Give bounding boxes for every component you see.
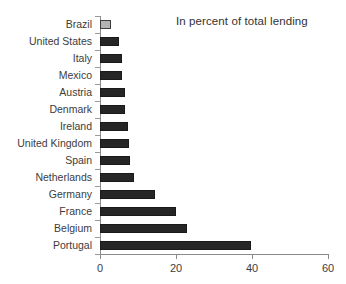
x-axis-line bbox=[100, 254, 329, 255]
x-axis-tick-label: 40 bbox=[232, 262, 272, 274]
bar-belgium[interactable] bbox=[100, 224, 187, 233]
category-label-netherlands: Netherlands bbox=[0, 169, 92, 186]
category-label-united-states: United States bbox=[0, 33, 92, 50]
category-label-mexico: Mexico bbox=[0, 67, 92, 84]
x-axis-tick bbox=[328, 254, 329, 259]
bar-row bbox=[100, 67, 328, 84]
bar-spain[interactable] bbox=[100, 156, 130, 165]
bar-row bbox=[100, 33, 328, 50]
category-label-austria: Austria bbox=[0, 84, 92, 101]
x-axis-tick-label: 20 bbox=[156, 262, 196, 274]
bar-united-kingdom[interactable] bbox=[100, 139, 129, 148]
bar-mexico[interactable] bbox=[100, 71, 122, 80]
bar-ireland[interactable] bbox=[100, 122, 128, 131]
bar-row bbox=[100, 203, 328, 220]
x-axis-tick bbox=[252, 254, 253, 259]
category-label-germany: Germany bbox=[0, 186, 92, 203]
bar-denmark[interactable] bbox=[100, 105, 125, 114]
bar-row bbox=[100, 237, 328, 254]
x-axis-tick bbox=[100, 254, 101, 259]
bar-row bbox=[100, 118, 328, 135]
category-label-belgium: Belgium bbox=[0, 220, 92, 237]
bar-row bbox=[100, 16, 328, 33]
bar-chart: In percent of total lending BrazilUnited… bbox=[0, 0, 346, 284]
category-label-ireland: Ireland bbox=[0, 118, 92, 135]
bar-united-states[interactable] bbox=[100, 37, 119, 46]
bar-austria[interactable] bbox=[100, 88, 125, 97]
bar-row bbox=[100, 186, 328, 203]
bar-netherlands[interactable] bbox=[100, 173, 134, 182]
bar-italy[interactable] bbox=[100, 54, 122, 63]
bar-row bbox=[100, 84, 328, 101]
bar-portugal[interactable] bbox=[100, 241, 251, 250]
bar-row bbox=[100, 220, 328, 237]
category-label-united-kingdom: United Kingdom bbox=[0, 135, 92, 152]
bar-row bbox=[100, 101, 328, 118]
bar-row bbox=[100, 50, 328, 67]
x-axis-tick bbox=[176, 254, 177, 259]
category-label-brazil: Brazil bbox=[0, 16, 92, 33]
bar-row bbox=[100, 135, 328, 152]
category-label-france: France bbox=[0, 203, 92, 220]
category-label-portugal: Portugal bbox=[0, 237, 92, 254]
category-label-denmark: Denmark bbox=[0, 101, 92, 118]
category-label-spain: Spain bbox=[0, 152, 92, 169]
plot-area bbox=[100, 16, 328, 254]
x-axis-tick-label: 60 bbox=[308, 262, 346, 274]
bar-france[interactable] bbox=[100, 207, 176, 216]
category-label-italy: Italy bbox=[0, 50, 92, 67]
bar-brazil[interactable] bbox=[100, 20, 111, 29]
bar-germany[interactable] bbox=[100, 190, 155, 199]
bar-row bbox=[100, 169, 328, 186]
bar-row bbox=[100, 152, 328, 169]
x-axis-tick-label: 0 bbox=[80, 262, 120, 274]
